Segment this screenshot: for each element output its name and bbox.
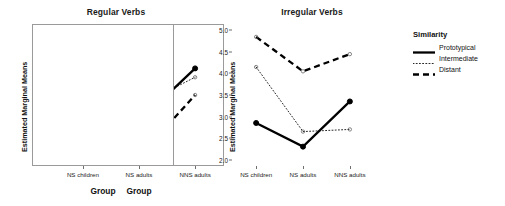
data-point <box>347 99 352 104</box>
series-intermediate <box>254 65 351 133</box>
figure-root: Regular Verbs Estimated Marginal Means G… <box>0 0 505 206</box>
legend-swatch-dashed-icon <box>413 65 435 74</box>
legend-label: Prototypical <box>439 44 476 51</box>
data-point <box>254 120 259 125</box>
legend: Similarity PrototypicalIntermediateDista… <box>413 30 505 75</box>
legend-item-prototypical[interactable]: Prototypical <box>413 42 505 52</box>
legend-swatch-dotted-icon <box>413 54 435 63</box>
legend-title: Similarity <box>413 30 505 39</box>
legend-label: Intermediate <box>439 55 478 62</box>
legend-label: Distant <box>439 66 461 73</box>
data-point <box>301 70 304 73</box>
legend-item-distant[interactable]: Distant <box>413 64 505 74</box>
data-point <box>301 144 306 149</box>
legend-item-intermediate[interactable]: Intermediate <box>413 53 505 63</box>
series-distant <box>254 35 351 73</box>
legend-swatch-solid-icon <box>413 43 435 52</box>
legend-entries: PrototypicalIntermediateDistant <box>413 42 505 74</box>
series-prototypical <box>254 99 353 149</box>
data-point <box>348 52 351 55</box>
